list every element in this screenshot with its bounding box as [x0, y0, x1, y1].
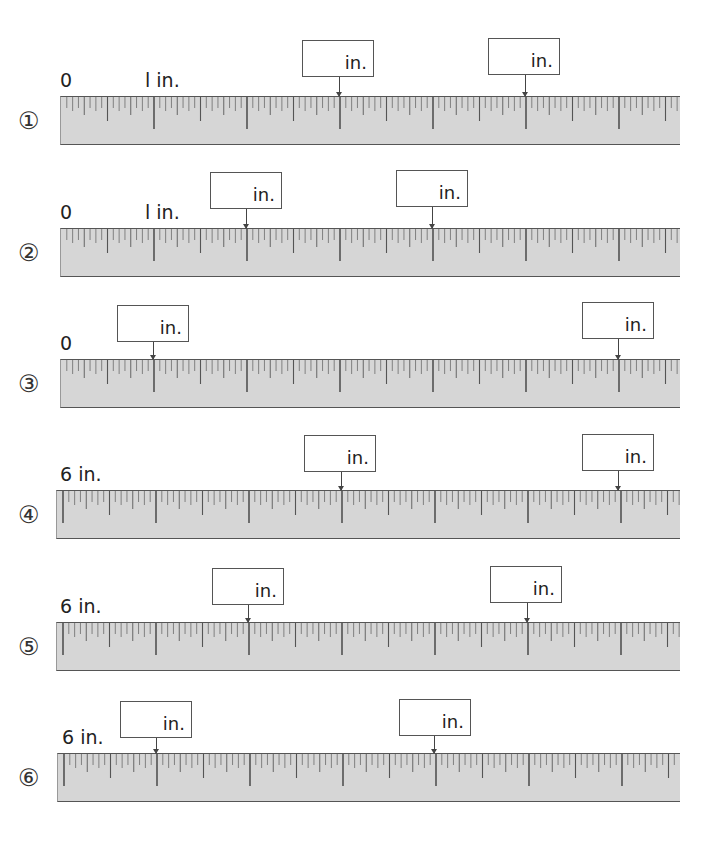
answer-input[interactable]: [586, 306, 628, 336]
pointer-arrow-icon: [339, 77, 340, 96]
pointer-arrow-icon: [156, 738, 157, 753]
pointer-arrow-icon: [618, 471, 619, 490]
ruler: [56, 622, 680, 671]
answer-box[interactable]: in.: [490, 566, 562, 603]
pointer-arrow-icon: [153, 342, 154, 359]
answer-box[interactable]: in.: [582, 302, 654, 339]
answer-input[interactable]: [308, 439, 350, 469]
ruler-start-label: 6 in.: [60, 596, 102, 616]
unit-label: in.: [442, 713, 464, 731]
answer-input[interactable]: [121, 309, 163, 339]
unit-label: in.: [625, 316, 647, 334]
answer-box[interactable]: in.: [117, 305, 189, 342]
pointer-arrow-icon: [432, 207, 433, 228]
unit-label: in.: [160, 319, 182, 337]
ruler-ticks: [57, 491, 681, 537]
answer-input[interactable]: [306, 44, 348, 74]
ruler-ticks: [57, 623, 681, 669]
unit-label: in.: [625, 448, 647, 466]
answer-input[interactable]: [216, 572, 258, 602]
ruler-ticks: [61, 229, 681, 275]
answer-box[interactable]: in.: [304, 435, 376, 472]
ruler-start-label: l in.: [145, 70, 180, 90]
ruler: [57, 753, 680, 802]
answer-box[interactable]: in.: [212, 568, 284, 605]
pointer-arrow-icon: [618, 339, 619, 359]
ruler-start-label: l in.: [145, 202, 180, 222]
problem-number: ④: [18, 503, 40, 527]
unit-label: in.: [533, 580, 555, 598]
answer-box[interactable]: in.: [302, 40, 374, 77]
answer-input[interactable]: [403, 703, 445, 733]
answer-input[interactable]: [214, 176, 256, 206]
problem-number: ⑤: [18, 635, 40, 659]
ruler: [60, 228, 680, 277]
pointer-arrow-icon: [246, 209, 247, 228]
pointer-arrow-icon: [248, 605, 249, 622]
problem-number: ③: [18, 372, 40, 396]
ruler-start-label: 0: [60, 202, 72, 222]
answer-box[interactable]: in.: [582, 434, 654, 471]
unit-label: in.: [255, 582, 277, 600]
answer-input[interactable]: [586, 438, 628, 468]
answer-input[interactable]: [494, 570, 536, 600]
problem-number: ②: [18, 241, 40, 265]
ruler-ticks: [61, 360, 681, 406]
unit-label: in.: [439, 184, 461, 202]
answer-input[interactable]: [400, 174, 442, 204]
unit-label: in.: [345, 54, 367, 72]
problem-number: ⑥: [18, 766, 40, 790]
ruler-start-label: 0: [60, 333, 72, 353]
answer-box[interactable]: in.: [399, 699, 471, 736]
pointer-arrow-icon: [434, 736, 435, 753]
unit-label: in.: [253, 186, 275, 204]
ruler: [60, 96, 680, 145]
pointer-arrow-icon: [527, 603, 528, 622]
ruler: [56, 490, 680, 539]
unit-label: in.: [531, 52, 553, 70]
ruler: [60, 359, 680, 408]
problem-number: ①: [18, 109, 40, 133]
ruler-start-label: 6 in.: [62, 727, 104, 747]
unit-label: in.: [163, 715, 185, 733]
answer-box[interactable]: in.: [488, 38, 560, 75]
answer-box[interactable]: in.: [396, 170, 468, 207]
pointer-arrow-icon: [341, 472, 342, 490]
answer-input[interactable]: [492, 42, 534, 72]
ruler-ticks: [58, 754, 681, 800]
unit-label: in.: [347, 449, 369, 467]
ruler-start-label: 6 in.: [60, 464, 102, 484]
pointer-arrow-icon: [525, 75, 526, 96]
answer-input[interactable]: [124, 705, 166, 735]
answer-box[interactable]: in.: [120, 701, 192, 738]
ruler-start-label: 0: [60, 70, 72, 90]
ruler-ticks: [61, 97, 681, 143]
answer-box[interactable]: in.: [210, 172, 282, 209]
